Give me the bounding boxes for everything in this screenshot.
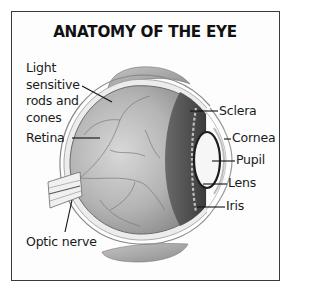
label-line-1: Light	[26, 60, 80, 77]
label-line-2: sensitive	[26, 77, 80, 94]
label-sclera: Sclera	[219, 103, 257, 120]
lower-eyelid	[102, 243, 188, 262]
lens-shape	[194, 132, 220, 188]
label-cornea: Cornea	[232, 130, 275, 147]
label-iris: Iris	[226, 198, 244, 215]
label-light-sensitive-rods-cones: Light sensitive rods and cones	[26, 60, 80, 126]
label-line-4: cones	[26, 110, 80, 127]
label-retina: Retina	[26, 130, 65, 147]
label-line-3: rods and	[26, 93, 80, 110]
label-lens: Lens	[228, 175, 256, 192]
label-optic-nerve: Optic nerve	[26, 234, 97, 251]
label-pupil: Pupil	[236, 152, 265, 169]
